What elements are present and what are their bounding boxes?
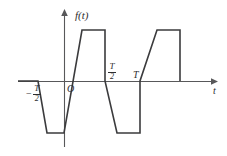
fraction-numerator: T <box>33 84 40 93</box>
x-axis-label: t <box>213 86 216 96</box>
waveform-figure: f(t) t O − T 2 T 2 T <box>0 0 227 156</box>
fraction-denominator: 2 <box>34 95 40 103</box>
fraction-body: T 2 <box>33 84 41 103</box>
origin-label: O <box>67 84 74 94</box>
y-axis-arrow-icon <box>61 9 68 16</box>
fraction-numerator: T <box>108 62 115 71</box>
x-tick-label-half-period: T 2 <box>108 62 116 81</box>
x-tick-label-negative-half-period: − T 2 <box>26 84 41 103</box>
x-axis-arrow-icon <box>211 78 218 85</box>
y-axis-label: f(t) <box>75 10 88 21</box>
fraction-denominator: 2 <box>109 73 115 81</box>
minus-sign: − <box>26 89 32 99</box>
x-tick-label-period: T <box>133 70 139 80</box>
